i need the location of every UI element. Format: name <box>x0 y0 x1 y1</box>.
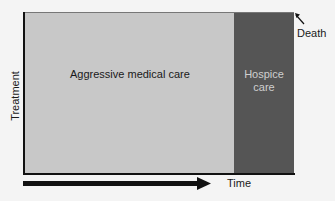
aggressive-care-block <box>23 12 234 174</box>
hospice-care-label: Hospice care <box>234 68 294 94</box>
y-axis-label: Treatment <box>9 71 21 121</box>
hospice-label-line1: Hospice <box>234 68 294 81</box>
x-axis <box>23 173 295 175</box>
death-label: Death <box>297 27 326 39</box>
up-left-arrow-icon <box>294 12 306 26</box>
x-axis-label: Time <box>227 177 251 189</box>
aggressive-care-label: Aggressive medical care <box>70 68 190 80</box>
right-arrow-icon <box>23 177 211 190</box>
hospice-label-line2: care <box>234 81 294 94</box>
top-border <box>23 12 294 13</box>
y-axis <box>23 12 25 175</box>
